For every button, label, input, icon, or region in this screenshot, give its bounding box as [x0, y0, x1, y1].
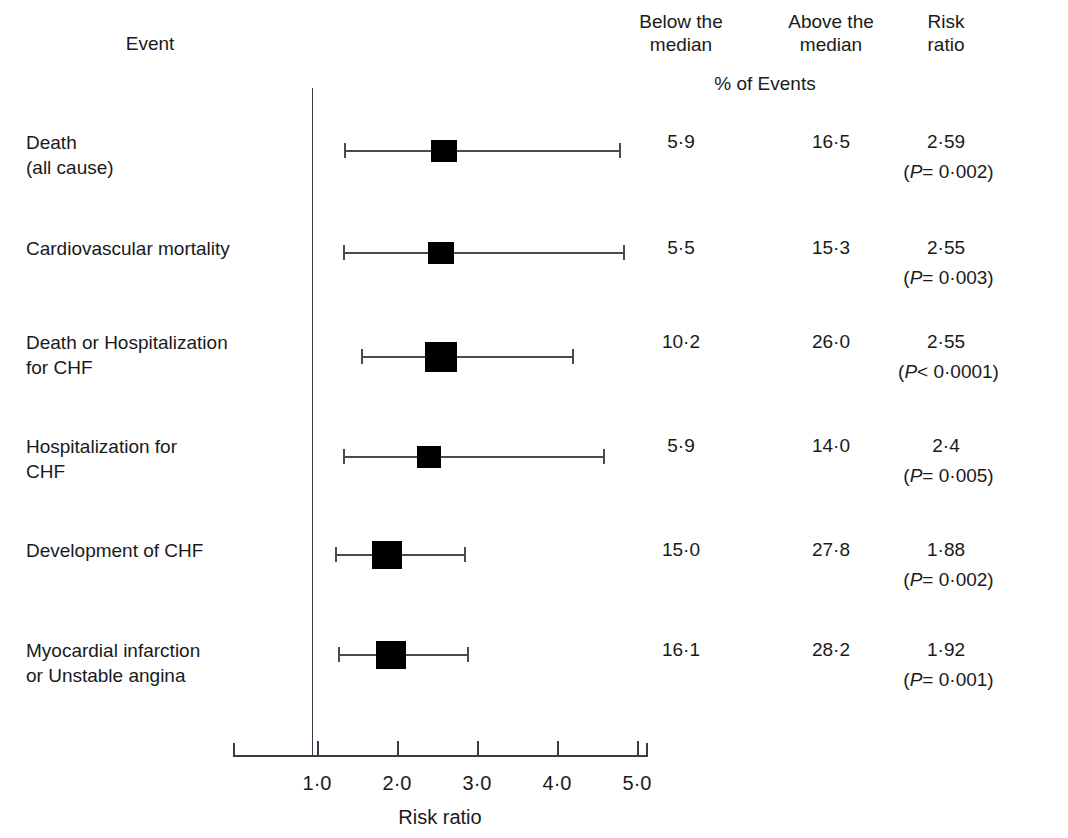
below-median-value: 5·9	[616, 434, 746, 457]
confidence-interval-line	[344, 150, 619, 152]
p-symbol: P	[910, 267, 923, 288]
confidence-interval-cap-low	[343, 245, 345, 260]
x-axis-tick	[637, 741, 639, 756]
p-symbol: P	[904, 361, 917, 382]
confidence-interval-cap-low	[338, 647, 340, 662]
x-axis-line	[233, 755, 648, 757]
p-symbol: P	[910, 465, 923, 486]
p-symbol: P	[910, 569, 923, 590]
x-axis-right-endcap	[646, 743, 648, 756]
event-label: Myocardial infarction or Unstable angina	[26, 638, 296, 688]
risk-ratio-point-marker	[417, 446, 441, 468]
event-label: Cardiovascular mortality	[26, 236, 296, 261]
x-axis-tick-label: 5·0	[607, 772, 667, 795]
risk-ratio-point-marker	[431, 140, 457, 162]
p-value: (P= 0·002)	[856, 568, 1041, 591]
risk-ratio-value: 2·4	[876, 434, 1016, 457]
p-value: (P< 0·0001)	[856, 360, 1041, 383]
risk-ratio-value: 2·59	[876, 130, 1016, 153]
x-axis-tick	[317, 741, 319, 756]
x-axis-tick-label: 3·0	[447, 772, 507, 795]
confidence-interval-cap-low	[361, 349, 363, 364]
x-axis-tick-label: 2·0	[367, 772, 427, 795]
x-axis-title: Risk ratio	[330, 806, 550, 829]
forest-plot-figure: Event Below the median Above the median …	[0, 0, 1068, 838]
confidence-interval-cap-high	[603, 449, 605, 464]
confidence-interval-line	[343, 252, 623, 254]
plot-area: Death (all cause)5·916·52·59(P= 0·002)Ca…	[0, 0, 1068, 838]
risk-ratio-point-marker	[376, 641, 406, 669]
risk-ratio-value: 2·55	[876, 330, 1016, 353]
risk-ratio-value: 2·55	[876, 236, 1016, 259]
p-symbol: P	[910, 669, 923, 690]
x-axis-tick-label: 4·0	[527, 772, 587, 795]
p-value: (P= 0·002)	[856, 160, 1041, 183]
confidence-interval-cap-low	[343, 449, 345, 464]
below-median-value: 15·0	[616, 538, 746, 561]
risk-ratio-value: 1·88	[876, 538, 1016, 561]
confidence-interval-cap-low	[344, 143, 346, 158]
x-axis-tick	[477, 741, 479, 756]
x-axis-left-endcap	[233, 743, 235, 756]
event-label: Death (all cause)	[26, 130, 296, 180]
confidence-interval-line	[343, 456, 603, 458]
risk-ratio-value: 1·92	[876, 638, 1016, 661]
event-label: Death or Hospitalization for CHF	[26, 330, 296, 380]
below-median-value: 5·9	[616, 130, 746, 153]
below-median-value: 5·5	[616, 236, 746, 259]
x-axis-tick	[557, 741, 559, 756]
confidence-interval-cap-high	[467, 647, 469, 662]
confidence-interval-cap-low	[335, 547, 337, 562]
below-median-value: 16·1	[616, 638, 746, 661]
event-label: Development of CHF	[26, 538, 296, 563]
x-axis-tick-label: 1·0	[287, 772, 347, 795]
reference-line-at-1	[312, 88, 313, 755]
p-value: (P= 0·005)	[856, 464, 1041, 487]
p-value: (P= 0·001)	[856, 668, 1041, 691]
p-symbol: P	[910, 161, 923, 182]
risk-ratio-point-marker	[425, 342, 457, 372]
x-axis-tick	[397, 741, 399, 756]
confidence-interval-cap-high	[464, 547, 466, 562]
event-label: Hospitalization for CHF	[26, 434, 296, 484]
risk-ratio-point-marker	[372, 541, 402, 569]
risk-ratio-point-marker	[428, 242, 454, 264]
confidence-interval-line	[361, 356, 572, 358]
confidence-interval-cap-high	[572, 349, 574, 364]
below-median-value: 10·2	[616, 330, 746, 353]
p-value: (P= 0·003)	[856, 266, 1041, 289]
